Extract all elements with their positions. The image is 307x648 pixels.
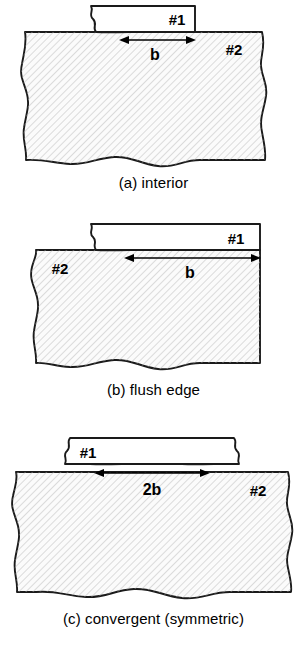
strip-label-a: #1 [169, 11, 186, 28]
strip-label-b: #1 [228, 230, 245, 247]
panel-convergent-symmetric: 2b #1 #2 (c) convergent (symmetric) [0, 412, 307, 648]
block-label-c: #2 [250, 482, 267, 499]
figure-sheet: b #1 #2 (a) interior [0, 0, 307, 648]
diagram-convergent-symmetric: 2b #1 #2 [0, 412, 307, 608]
block-label-a: #2 [226, 41, 243, 58]
dimension-label-a: b [150, 46, 160, 63]
caption-interior: (a) interior [0, 174, 307, 192]
dimension-label-b: b [185, 264, 195, 281]
strip-label-c: #1 [80, 444, 97, 461]
dimension-label-c: 2b [143, 481, 162, 498]
diagram-interior: b #1 #2 [0, 0, 307, 172]
block-label-b: #2 [52, 260, 69, 277]
caption-convergent-symmetric: (c) convergent (symmetric) [0, 610, 307, 628]
panel-interior: b #1 #2 (a) interior [0, 0, 307, 200]
caption-flush-edge: (b) flush edge [0, 381, 307, 399]
panel-flush-edge: b #1 #2 (b) flush edge [0, 203, 307, 408]
diagram-flush-edge: b #1 #2 [0, 203, 307, 379]
